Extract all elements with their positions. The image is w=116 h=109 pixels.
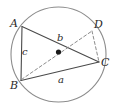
vertex-label-A: A <box>10 18 18 29</box>
side-label-a: a <box>58 75 64 85</box>
vertex-label-D: D <box>94 19 103 30</box>
circle-center-dot <box>56 49 61 54</box>
segment-DC <box>92 31 99 62</box>
vertex-label-B: B <box>10 80 18 91</box>
side-label-c: c <box>22 47 28 57</box>
vertex-label-C: C <box>101 57 109 68</box>
side-label-b: b <box>57 33 63 43</box>
geometry-figure: A B C D c a b <box>0 0 116 109</box>
